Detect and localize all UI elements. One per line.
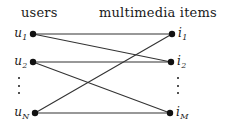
ellipsis-dot [177,92,179,94]
graph-node-iM [167,110,173,116]
node-label-u2: u2 [0,54,27,68]
graph-edge-u1-i2 [33,34,171,62]
graph-canvas [0,0,231,129]
graph-node-i2 [168,59,174,65]
graph-edge-u2-iM [33,62,170,113]
node-label-uN: uN [0,105,29,119]
left-ellipsis [17,77,21,94]
graph-node-u1 [30,31,36,37]
ellipsis-dot [18,77,20,79]
ellipsis-dot [177,77,179,79]
edge-layer [33,34,172,113]
graph-edge-uN-i1 [35,34,172,113]
ellipsis-dot [18,85,20,87]
bipartite-graph-figure: users multimedia items u1u2uNi1i2iM [0,0,231,129]
node-label-i2: i2 [177,54,186,68]
right-ellipsis [176,77,180,94]
graph-node-uN [32,110,38,116]
node-label-u1: u1 [0,26,27,40]
graph-node-i1 [169,31,175,37]
node-label-iM: iM [176,105,188,119]
ellipsis-dot [18,92,20,94]
node-label-i1: i1 [178,26,187,40]
ellipsis-dot [177,85,179,87]
graph-node-u2 [30,59,36,65]
